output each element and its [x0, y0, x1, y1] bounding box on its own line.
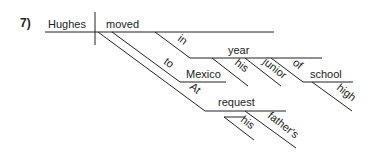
sentence-diagram: 7) Hughes moved in year his junior of sc…	[0, 0, 370, 157]
subject-word: Hughes	[48, 18, 86, 30]
word-school: school	[310, 68, 342, 80]
word-request: request	[218, 96, 255, 108]
word-high: high	[335, 81, 359, 103]
word-in: in	[176, 32, 190, 47]
word-to: to	[162, 55, 177, 70]
item-number: 7)	[20, 16, 31, 30]
word-junior: junior	[260, 55, 290, 82]
word-mexico: Mexico	[186, 68, 221, 80]
verb-word: moved	[106, 18, 139, 30]
word-fathers: father's	[266, 109, 302, 141]
word-his-1: his	[233, 56, 252, 74]
word-his-2: his	[239, 113, 258, 131]
word-year: year	[228, 44, 250, 56]
